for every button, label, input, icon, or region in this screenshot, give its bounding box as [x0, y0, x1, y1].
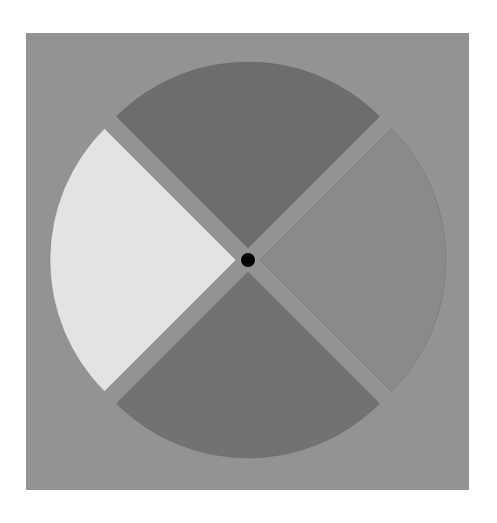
diagram-canvas	[0, 0, 497, 523]
center-dot	[241, 253, 255, 267]
